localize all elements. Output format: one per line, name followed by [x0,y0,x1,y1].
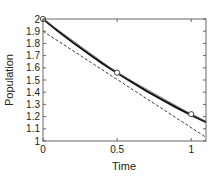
population-chart: 11.11.21.31.41.51.61.71.81.9200.51 Time … [0,0,217,177]
y-tick-label: 1.1 [26,123,40,134]
axes: 11.11.21.31.41.51.61.71.81.9200.51 [26,14,206,156]
x-tick-label: 1 [188,144,194,155]
y-tick-label: 2 [34,14,40,25]
approximation-line [43,19,206,122]
y-tick-label: 1.3 [26,99,40,110]
y-tick-label: 1.6 [26,62,40,73]
y-tick-label: 1.5 [26,75,40,86]
x-axis-label: Time [112,160,136,172]
x-tick-label: 0 [40,144,46,155]
sample-point-marker [189,112,194,117]
y-tick-label: 1.2 [26,111,40,122]
exact-curve [43,19,206,122]
y-axis-label: Population [3,54,15,106]
sample-point-marker [114,70,119,75]
plot-area [40,16,206,137]
tangent-dashed-line [43,31,206,137]
y-tick-label: 1.4 [26,87,40,98]
y-tick-label: 1.9 [26,26,40,37]
x-tick-label: 0.5 [110,144,124,155]
y-tick-label: 1.7 [26,50,40,61]
y-tick-label: 1.8 [26,38,40,49]
